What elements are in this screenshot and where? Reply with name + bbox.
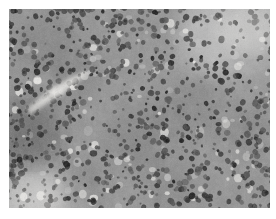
histology-micrograph xyxy=(9,9,270,208)
film-grain xyxy=(9,9,270,208)
micrograph-canvas xyxy=(9,9,270,208)
micrograph-page: Grayscale histopathology photomicrograph… xyxy=(0,0,276,219)
